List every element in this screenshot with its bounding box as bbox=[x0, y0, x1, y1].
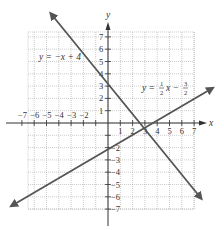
x-axis-label: x bbox=[208, 118, 214, 128]
y-tick-label: 6 bbox=[99, 44, 103, 54]
svg-text:1: 1 bbox=[160, 80, 163, 87]
x-tick-label: 4 bbox=[155, 126, 160, 136]
y-tick-label: 1 bbox=[99, 106, 103, 116]
x-tick-label: −5 bbox=[43, 110, 52, 120]
x-tick-label: −3 bbox=[67, 110, 76, 120]
x-tick-label: 1 bbox=[118, 126, 122, 136]
annotations: y = −x + 4 y = 1 2 x − 3 2 x y bbox=[38, 10, 214, 128]
x-tick-label: −7 bbox=[18, 110, 27, 120]
y-tick-label: −6 bbox=[111, 192, 120, 202]
y-tick-label: −3 bbox=[111, 155, 120, 165]
line2-label: y = 1 2 x − 3 2 bbox=[141, 80, 188, 96]
y-tick-label: 7 bbox=[99, 32, 103, 42]
y-tick-label: −4 bbox=[111, 167, 121, 177]
y-axis-label: y bbox=[105, 10, 111, 20]
svg-text:2: 2 bbox=[160, 89, 163, 96]
x-tick-label: −2 bbox=[79, 110, 88, 120]
x-tick-label: 6 bbox=[180, 126, 184, 136]
axes bbox=[6, 22, 207, 226]
y-tick-label: −7 bbox=[111, 204, 120, 214]
line1-label: y = −x + 4 bbox=[38, 52, 81, 62]
coordinate-plane: −7−6−5−4−3−212345677654321−2−3−4−5−6−7 y… bbox=[0, 0, 224, 230]
y-tick-label: −5 bbox=[111, 180, 120, 190]
y-tick-label: 2 bbox=[99, 93, 103, 103]
y-tick-label: 3 bbox=[99, 81, 103, 91]
x-tick-label: −6 bbox=[30, 110, 39, 120]
svg-text:y =: y = bbox=[141, 83, 155, 93]
x-tick-label: −4 bbox=[55, 110, 65, 120]
x-tick-label: 5 bbox=[168, 126, 172, 136]
svg-text:x −: x − bbox=[165, 83, 179, 93]
y-tick-label: 5 bbox=[99, 57, 103, 67]
x-tick-label: 7 bbox=[192, 126, 196, 136]
svg-text:2: 2 bbox=[184, 89, 187, 96]
svg-text:3: 3 bbox=[184, 80, 187, 87]
